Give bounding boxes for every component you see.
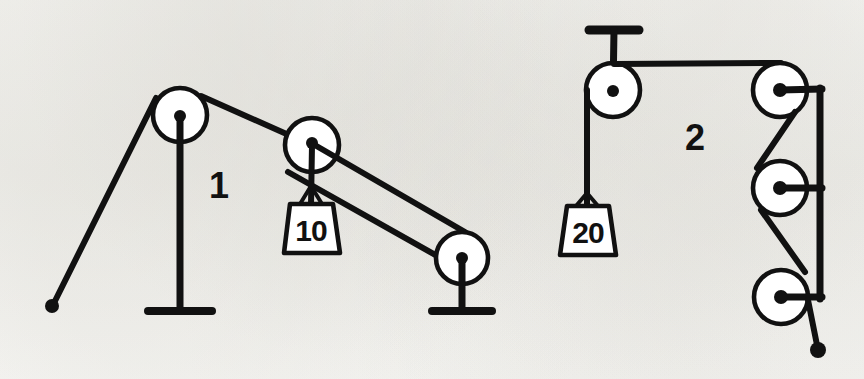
rope-end-dot-icon [45, 299, 59, 313]
rope-end-dot-icon-2 [810, 342, 826, 358]
pulley-axle-dot-frame-bottom [774, 290, 788, 304]
diagram-number-1: 1 [209, 165, 229, 206]
pulley-axle-dot-right [456, 252, 468, 264]
rope-segment-frame-middle-to-bottom [761, 210, 805, 272]
rope-segment-bottom-to-free-end [808, 300, 817, 345]
diagram-1-group: 10 1 [45, 88, 492, 313]
pulley-axle-dot-frame-top [773, 83, 787, 97]
rope-segment-anchor-to-left-pulley [54, 98, 156, 303]
pulley-axle-dot-ceiling [607, 85, 619, 97]
pulley-diagram-figure: 10 1 20 [0, 0, 864, 379]
weight-hanger-stem-10 [311, 145, 312, 205]
pulley-diagram-canvas: 10 1 20 [0, 0, 864, 379]
diagram-2-group: 20 2 [560, 30, 826, 358]
rope-segment-ceiling-to-frame-top [614, 63, 781, 64]
weight-value-10: 10 [295, 214, 327, 247]
pulley-axle-dot-frame-middle [773, 181, 787, 195]
diagram-number-2: 2 [685, 117, 705, 158]
weight-value-20: 20 [572, 216, 604, 249]
pulley-axle-dot-left [174, 110, 186, 122]
